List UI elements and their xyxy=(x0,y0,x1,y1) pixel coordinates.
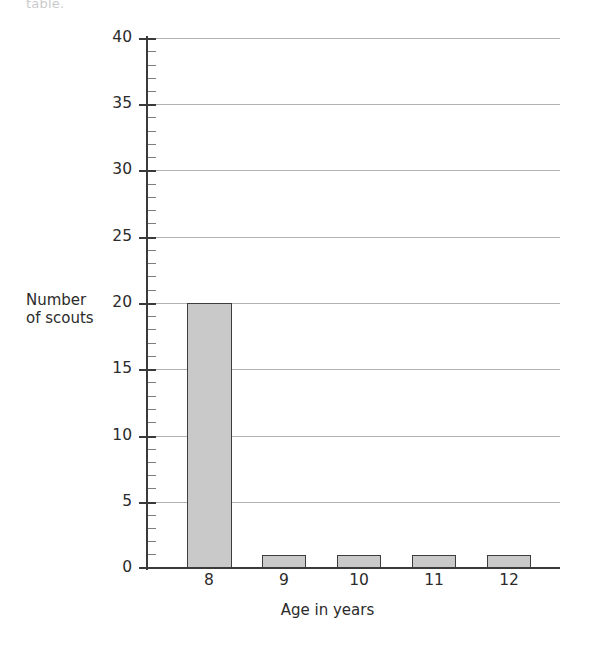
y-tick-minor xyxy=(148,131,156,132)
y-tick-label-25: 25 xyxy=(92,229,132,245)
y-tick-label-35: 35 xyxy=(92,96,132,112)
y-axis-title: Number of scouts xyxy=(26,291,126,328)
y-axis-title-line-2: of scouts xyxy=(26,309,126,327)
y-tick-minor xyxy=(148,488,156,489)
x-axis-title-text: Age in years xyxy=(217,601,375,619)
y-tick-minor xyxy=(148,554,156,555)
y-tick-major-5 xyxy=(139,502,156,504)
y-tick-minor xyxy=(148,276,156,277)
y-tick-minor xyxy=(148,462,156,463)
y-tick-major-20 xyxy=(139,303,156,305)
y-tick-major-10 xyxy=(139,436,156,438)
x-tick-label-11: 11 xyxy=(404,573,464,589)
y-tick-minor xyxy=(148,91,156,92)
y-tick-minor xyxy=(148,290,156,291)
x-tick-label-10: 10 xyxy=(329,573,389,589)
y-tick-major-0 xyxy=(139,567,156,569)
bar-chart: 40 35 30 25 20 15 10 5 0 Number of scout… xyxy=(0,0,591,645)
y-axis-title-line-1: Number xyxy=(26,291,126,309)
y-tick-major-40 xyxy=(139,38,156,40)
y-tick-minor xyxy=(148,197,156,198)
y-tick-minor xyxy=(148,422,156,423)
y-tick-minor xyxy=(148,449,156,450)
gridline-30 xyxy=(147,170,560,171)
y-tick-minor xyxy=(148,184,156,185)
x-axis-line xyxy=(139,567,560,569)
x-axis-title: Age in years xyxy=(0,601,591,619)
y-tick-label-10: 10 xyxy=(92,428,132,444)
y-tick-major-30 xyxy=(139,170,156,172)
y-tick-minor xyxy=(148,263,156,264)
x-tick-label-8: 8 xyxy=(179,573,239,589)
gridline-25 xyxy=(147,237,560,238)
y-tick-minor xyxy=(148,475,156,476)
y-tick-minor xyxy=(148,528,156,529)
y-tick-minor xyxy=(148,356,156,357)
y-tick-label-40: 40 xyxy=(92,30,132,46)
x-tick-label-9: 9 xyxy=(254,573,314,589)
gridline-40 xyxy=(147,38,560,39)
y-tick-minor xyxy=(148,329,156,330)
y-tick-label-0: 0 xyxy=(92,560,132,576)
y-tick-minor xyxy=(148,144,156,145)
y-tick-minor xyxy=(148,117,156,118)
y-tick-minor xyxy=(148,65,156,66)
y-tick-minor xyxy=(148,396,156,397)
x-tick-label-12: 12 xyxy=(479,573,539,589)
y-tick-minor xyxy=(148,409,156,410)
y-tick-label-15: 15 xyxy=(92,361,132,377)
y-tick-minor xyxy=(148,343,156,344)
y-tick-minor xyxy=(148,382,156,383)
y-tick-minor xyxy=(148,541,156,542)
y-tick-minor xyxy=(148,223,156,224)
y-tick-minor xyxy=(148,250,156,251)
y-tick-major-25 xyxy=(139,237,156,239)
plot-area xyxy=(147,38,560,568)
gridline-35 xyxy=(147,104,560,105)
y-tick-major-35 xyxy=(139,104,156,106)
y-tick-label-5: 5 xyxy=(92,494,132,510)
y-tick-major-15 xyxy=(139,369,156,371)
bar-age-8 xyxy=(187,303,232,568)
y-tick-minor xyxy=(148,316,156,317)
y-tick-minor xyxy=(148,210,156,211)
y-tick-minor xyxy=(148,78,156,79)
y-tick-label-30: 30 xyxy=(92,162,132,178)
y-tick-minor xyxy=(148,51,156,52)
y-tick-minor xyxy=(148,515,156,516)
y-tick-minor xyxy=(148,157,156,158)
